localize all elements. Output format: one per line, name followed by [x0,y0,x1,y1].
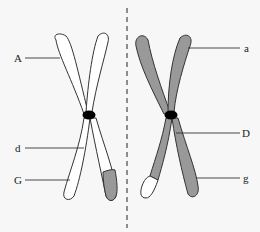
label-d: d [15,142,21,154]
label-a: a [244,42,249,54]
right-lower-arm-1 [150,118,172,180]
left-centromere [83,111,96,120]
label-A: A [14,52,22,64]
left-chromosome [55,33,117,200]
label-D: D [242,127,250,139]
right-centromere [165,111,178,120]
left-upper-arm-2 [86,33,108,112]
left-lower-arm-1 [64,118,90,199]
label-g: g [243,172,249,184]
right-upper-arm-2 [168,35,191,112]
right-lower-arm-2 [172,118,198,197]
left-grey-tip [103,170,117,201]
left-upper-arm-1 [55,34,88,114]
diagram-svg: A d G a D g [0,0,260,232]
chromosome-diagram: A d G a D g [0,0,260,232]
right-chromosome [136,35,199,198]
label-G: G [14,174,22,186]
right-upper-arm-1 [136,36,170,114]
right-white-tip [141,176,158,198]
